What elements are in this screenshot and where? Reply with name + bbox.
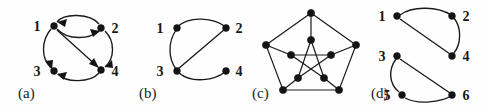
vertex-6 xyxy=(449,92,456,99)
vertex-1 xyxy=(394,13,401,20)
panel-a-caption: (a) xyxy=(18,86,35,101)
node-label-1: 1 xyxy=(157,21,164,36)
vertex-4 xyxy=(223,68,230,75)
node-label-6: 6 xyxy=(463,88,470,103)
vertex-inner-4 xyxy=(287,51,294,58)
edge-pentagram-0 xyxy=(311,40,324,78)
edge-pentagram-4 xyxy=(298,40,311,78)
edge-3-2-diagonal xyxy=(178,29,225,69)
edge-3-5-arc xyxy=(391,59,399,92)
vertex-3 xyxy=(51,68,58,75)
vertex-outer-1 xyxy=(352,41,359,48)
vertex-3 xyxy=(174,68,181,75)
vertex-3 xyxy=(394,53,401,60)
edge-1-3-arc xyxy=(170,30,176,69)
edge-3-6-diagonal xyxy=(400,59,450,93)
vertex-inner-1 xyxy=(327,51,334,58)
node-label-2: 2 xyxy=(463,9,470,24)
vertex-2 xyxy=(449,13,456,20)
node-label-4: 4 xyxy=(112,64,119,79)
node-label-3: 3 xyxy=(379,49,386,64)
edge-1-2-arc xyxy=(400,8,451,15)
panel-d: 1 2 3 4 5 6 (d) xyxy=(365,0,489,111)
vertex-inner-2 xyxy=(320,74,327,81)
vertex-inner-0 xyxy=(307,36,314,43)
node-label-2: 2 xyxy=(112,21,119,36)
edge-pentagram-3 xyxy=(298,55,331,78)
edge-2-4-arc xyxy=(454,18,460,53)
panel-c: (c) xyxy=(245,0,365,111)
vertex-outer-3 xyxy=(279,86,286,93)
vertex-outer-0 xyxy=(307,9,314,16)
panel-a: 1 2 3 4 (a) xyxy=(0,0,130,111)
vertex-inner-3 xyxy=(294,74,301,81)
edge-5-6-arc xyxy=(405,96,451,102)
panel-d-caption: (d) xyxy=(371,86,389,101)
vertex-outer-4 xyxy=(262,41,269,48)
vertex-1 xyxy=(174,25,181,32)
vertex-4 xyxy=(98,67,105,74)
node-label-1: 1 xyxy=(34,19,41,34)
edge-pentagram-1 xyxy=(291,55,324,78)
vertex-4 xyxy=(449,53,456,60)
node-label-3: 3 xyxy=(34,64,41,79)
node-label-3: 3 xyxy=(157,64,164,79)
edge-1-4-diagonal xyxy=(400,19,450,54)
vertex-outer-2 xyxy=(335,86,342,93)
node-label-2: 2 xyxy=(236,21,243,36)
edge-3-4-arc xyxy=(179,72,225,80)
vertex-2 xyxy=(98,25,105,32)
node-label-4: 4 xyxy=(236,64,243,79)
vertex-2 xyxy=(223,25,230,32)
graph-figure: 1 2 3 4 (a) 1 2 3 4 (b) xyxy=(0,0,489,111)
node-label-4: 4 xyxy=(463,49,470,64)
arrowhead-1-to-3 xyxy=(45,60,53,69)
vertex-5 xyxy=(399,92,406,99)
panel-b-caption: (b) xyxy=(139,86,157,101)
edge-1-2-arc xyxy=(177,19,226,27)
node-label-1: 1 xyxy=(379,9,386,24)
vertex-1 xyxy=(51,23,58,30)
panel-b: 1 2 3 4 (b) xyxy=(130,0,245,111)
panel-c-caption: (c) xyxy=(252,86,269,101)
